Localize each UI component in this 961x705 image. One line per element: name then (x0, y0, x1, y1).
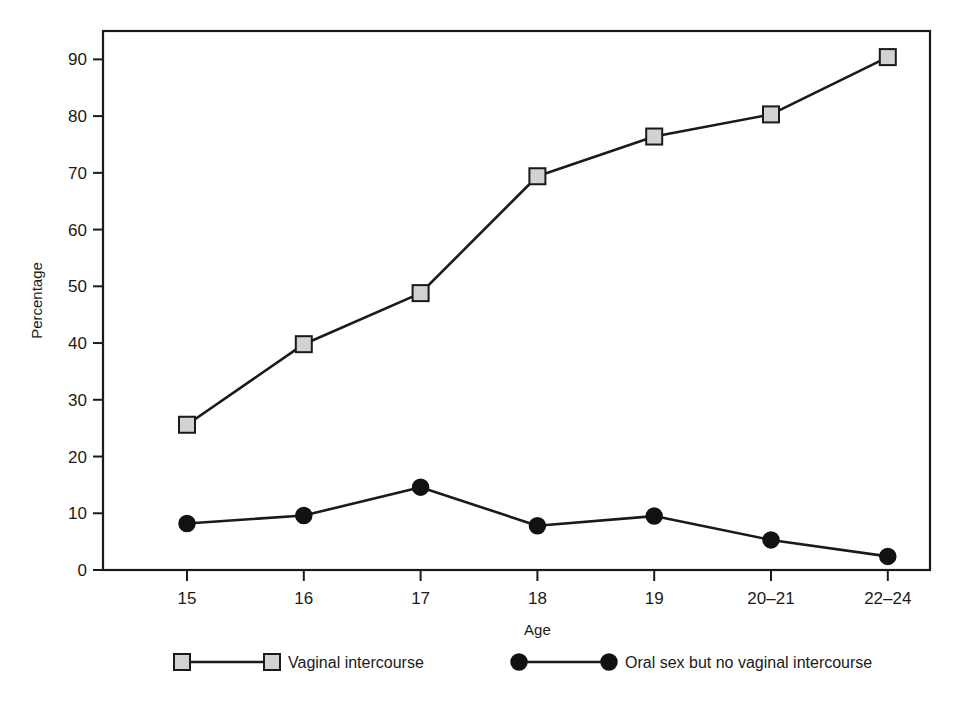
y-tick-label-20: 20 (68, 448, 87, 467)
x-axis-title: Age (524, 621, 551, 638)
legend-square-marker-0-0 (174, 654, 190, 670)
x-tick-label-6: 22–24 (864, 589, 911, 608)
x-tick-label-1: 16 (294, 589, 313, 608)
y-tick-label-70: 70 (68, 164, 87, 183)
y-axis-title: Percentage (28, 262, 45, 339)
x-tick-label-4: 19 (645, 589, 664, 608)
y-tick-label-30: 30 (68, 391, 87, 410)
plot-frame (103, 31, 930, 570)
x-tick-label-2: 17 (411, 589, 430, 608)
x-tick-label-5: 20–21 (747, 589, 794, 608)
line-chart: 0102030405060708090151617181920–2122–24A… (0, 0, 961, 705)
x-tick-label-0: 15 (178, 589, 197, 608)
y-tick-label-60: 60 (68, 221, 87, 240)
data-point-s1-2 (413, 479, 429, 495)
data-point-s0-6 (880, 49, 896, 65)
data-point-s0-4 (646, 129, 662, 145)
y-tick-label-90: 90 (68, 50, 87, 69)
legend-label-0: Vaginal intercourse (288, 654, 424, 671)
data-point-s0-1 (296, 336, 312, 352)
data-point-s1-3 (529, 518, 545, 534)
data-point-s1-6 (880, 548, 896, 564)
y-tick-label-40: 40 (68, 334, 87, 353)
y-tick-label-80: 80 (68, 107, 87, 126)
y-tick-label-0: 0 (78, 561, 87, 580)
chart-figure: 0102030405060708090151617181920–2122–24A… (0, 0, 961, 705)
data-point-s1-1 (296, 508, 312, 524)
data-point-s1-0 (179, 515, 195, 531)
y-tick-label-50: 50 (68, 277, 87, 296)
legend-circle-marker-1-1 (601, 654, 617, 670)
legend-circle-marker-1-0 (511, 654, 527, 670)
data-point-s0-0 (179, 417, 195, 433)
legend-label-1: Oral sex but no vaginal intercourse (625, 654, 872, 671)
data-point-s0-3 (529, 168, 545, 184)
x-tick-label-3: 18 (528, 589, 547, 608)
legend-square-marker-0-1 (264, 654, 280, 670)
data-point-s1-5 (763, 532, 779, 548)
data-point-s1-4 (646, 508, 662, 524)
data-point-s0-2 (413, 285, 429, 301)
y-tick-label-10: 10 (68, 504, 87, 523)
data-point-s0-5 (763, 106, 779, 122)
